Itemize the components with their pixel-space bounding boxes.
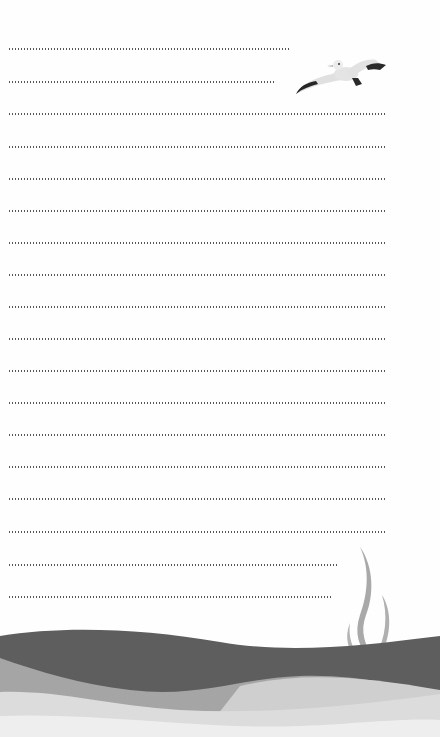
writing-line bbox=[8, 498, 387, 500]
writing-line bbox=[8, 48, 290, 50]
writing-line bbox=[8, 466, 387, 468]
writing-line bbox=[8, 306, 387, 308]
writing-line bbox=[8, 178, 387, 180]
notepaper bbox=[0, 0, 440, 737]
writing-line bbox=[8, 81, 275, 83]
writing-line bbox=[8, 146, 387, 148]
writing-line bbox=[8, 242, 387, 244]
writing-line bbox=[8, 596, 333, 598]
writing-line bbox=[8, 434, 387, 436]
writing-line bbox=[8, 338, 387, 340]
writing-line bbox=[8, 402, 387, 404]
writing-line bbox=[8, 370, 387, 372]
writing-line bbox=[8, 113, 387, 115]
writing-line bbox=[8, 210, 387, 212]
seagull-icon bbox=[292, 48, 390, 98]
wave-footer bbox=[0, 628, 440, 737]
writing-line bbox=[8, 531, 387, 533]
writing-line bbox=[8, 274, 387, 276]
writing-line bbox=[8, 564, 337, 566]
